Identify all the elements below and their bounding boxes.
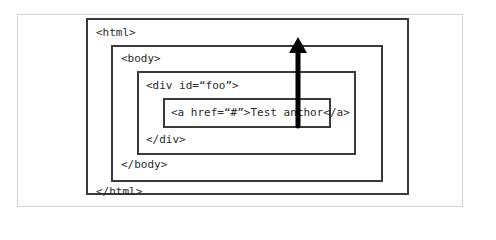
div-close-tag-label: </div> <box>146 133 186 146</box>
body-open-tag-label: <body> <box>121 52 161 65</box>
html-close-tag-label: </html> <box>96 185 142 198</box>
anchor-tag-label: <a href=“#”>Test anchor</a> <box>171 106 350 119</box>
html-open-tag-label: <html> <box>96 26 136 39</box>
div-open-tag-label: <div id=“foo”> <box>146 79 239 92</box>
body-close-tag-label: </body> <box>121 158 167 171</box>
